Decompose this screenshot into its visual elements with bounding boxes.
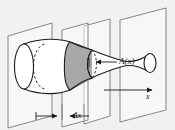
left-end-ellipse	[15, 44, 34, 89]
figure-canvas	[0, 0, 175, 130]
right-end-ellipse	[144, 54, 156, 73]
delta-x-label: Δx	[73, 112, 81, 120]
cross-section-volume-figure: A(x) Δx x	[0, 0, 175, 130]
x-axis-label: x	[146, 93, 150, 101]
area-function-label: A(x)	[119, 57, 135, 66]
